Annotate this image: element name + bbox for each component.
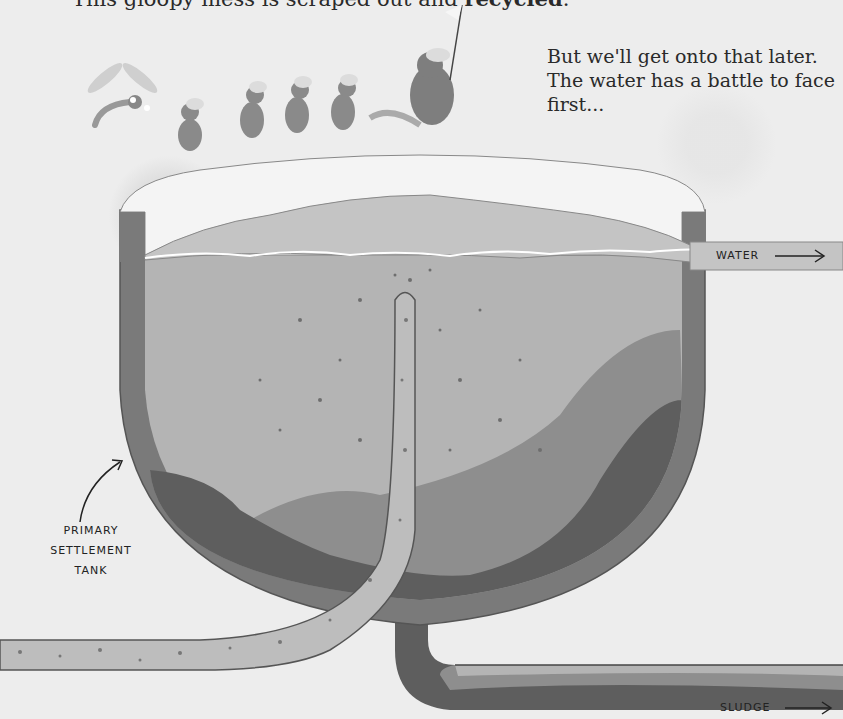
settlement-tank-illustration (0, 0, 843, 719)
sludge-outlet-label: SLUDGE (720, 698, 771, 718)
tank-label-line-1: PRIMARY (36, 521, 146, 541)
rat-leader-icon (370, 5, 462, 125)
mouse-icon (178, 79, 356, 151)
tank-label: PRIMARY SETTLEMENT TANK (36, 521, 146, 581)
tank-label-arrow (80, 462, 120, 522)
tank-label-line-2: SETTLEMENT (36, 541, 146, 561)
tank-label-line-3: TANK (36, 561, 146, 581)
water-outlet-label: WATER (716, 246, 759, 266)
dragonfly-icon (84, 59, 160, 125)
